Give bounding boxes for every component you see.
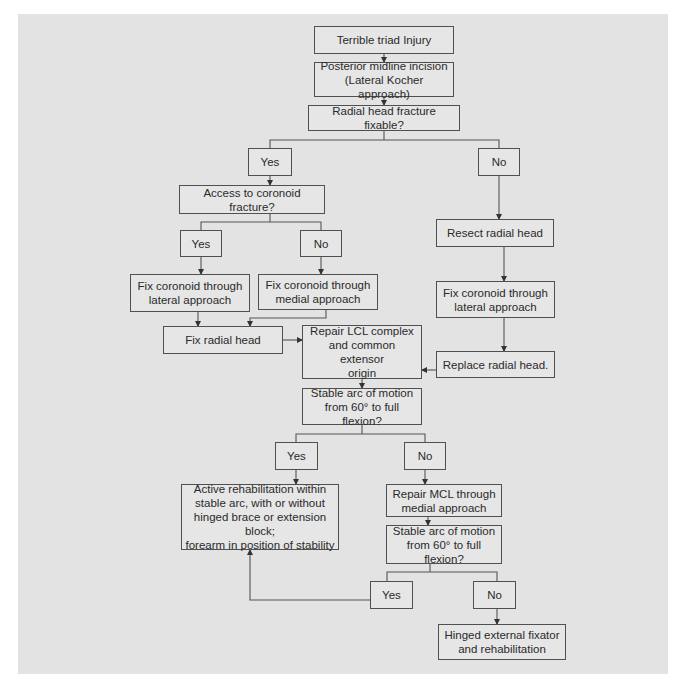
node-active-rehabilitation: Active rehabilitation within stable arc,… — [181, 484, 339, 550]
node-stable2-yes: Yes — [370, 581, 413, 609]
node-hinged-external-fixator: Hinged external fixator and rehabilitati… — [438, 624, 566, 660]
node-fixable-yes: Yes — [248, 148, 292, 176]
node-radial-head-fixable-question: Radial head fracture fixable? — [308, 105, 460, 131]
node-repair-mcl: Repair MCL through medial approach — [386, 484, 502, 517]
node-fix-coronoid-medial: Fix coronoid through medial approach — [258, 274, 378, 310]
node-access-coronoid-question: Access to coronoid fracture? — [179, 185, 325, 214]
node-fix-coronoid-lateral-right: Fix coronoid through lateral approach — [436, 281, 555, 318]
node-stable1-yes: Yes — [275, 442, 318, 470]
node-fix-radial-head: Fix radial head — [163, 326, 283, 354]
node-replace-radial-head: Replace radial head. — [436, 351, 555, 378]
node-stable1-no: No — [404, 442, 446, 470]
node-stable-arc-question-2: Stable arc of motion from 60° to full fl… — [386, 525, 502, 564]
node-access-yes: Yes — [180, 230, 222, 257]
node-posterior-midline-incision: Posterior midline incision (Lateral Koch… — [314, 62, 454, 97]
node-stable2-no: No — [473, 581, 516, 609]
node-stable-arc-question-1: Stable arc of motion from 60° to full fl… — [302, 388, 422, 425]
node-resect-radial-head: Resect radial head — [436, 219, 554, 247]
node-terrible-triad-injury: Terrible triad Injury — [314, 26, 454, 54]
node-fix-coronoid-lateral: Fix coronoid through lateral approach — [130, 274, 250, 312]
node-repair-lcl-complex: Repair LCL complex and common extensor o… — [302, 325, 422, 379]
node-fixable-no: No — [478, 148, 520, 176]
node-access-no: No — [300, 230, 342, 257]
